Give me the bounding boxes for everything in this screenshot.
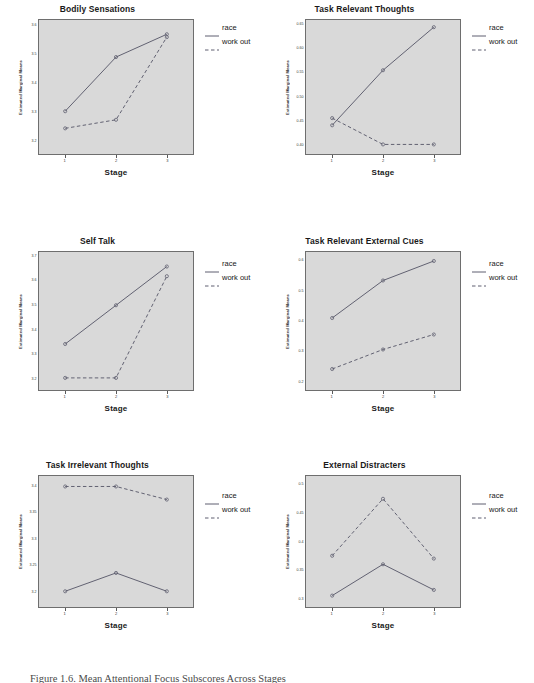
legend-label: work out xyxy=(489,506,517,514)
legend-item[interactable]: race xyxy=(472,24,517,32)
x-tick-label: 3 xyxy=(433,158,435,163)
data-point-marker xyxy=(331,117,334,120)
y-tick-label: 3.25 xyxy=(30,564,37,568)
legend-swatch-dashed xyxy=(205,507,219,513)
data-point-marker xyxy=(331,594,334,597)
chart-legend: racework out xyxy=(472,24,517,46)
x-tick-label: 2 xyxy=(115,394,117,399)
x-tick-label: 3 xyxy=(166,611,168,616)
series-canvas xyxy=(306,20,460,154)
chart-legend: racework out xyxy=(205,492,250,514)
legend-swatch-dashed xyxy=(472,275,486,281)
legend-label: race xyxy=(489,492,504,500)
y-axis-ticks: 0.50.450.40.350.3 xyxy=(290,475,305,608)
chart-panel: Self TalkEstimated Marginal Means3.73.63… xyxy=(0,222,267,452)
series-line-race xyxy=(332,261,434,318)
y-axis-ticks: 3.43.353.33.253.2 xyxy=(23,475,38,608)
chart-title: Task Irrelevant Thoughts xyxy=(0,460,195,471)
y-tick-label: 0.5 xyxy=(299,483,304,487)
y-tick-label: 3.5 xyxy=(32,53,37,57)
y-tick-label: 0.45 xyxy=(297,512,304,516)
legend-item[interactable]: race xyxy=(205,24,250,32)
x-tick-label: 2 xyxy=(115,611,117,616)
y-tick-label: 0.50 xyxy=(297,96,304,100)
chart-title: External Distracters xyxy=(267,460,462,471)
x-axis-label: Stage xyxy=(38,168,194,177)
x-tick-label: 3 xyxy=(433,611,435,616)
data-point-marker xyxy=(331,124,334,127)
y-tick-label: 3.3 xyxy=(32,353,37,357)
series-canvas xyxy=(39,20,193,154)
y-tick-label: 0.4 xyxy=(299,320,304,324)
data-point-marker xyxy=(432,26,435,29)
y-tick-label: 3.2 xyxy=(32,140,37,144)
series-line-race xyxy=(332,564,434,595)
x-axis-ticks: 123 xyxy=(38,155,194,168)
series-line-race xyxy=(65,267,167,344)
x-tick-label: 3 xyxy=(166,158,168,163)
x-axis-label: Stage xyxy=(305,404,461,413)
legend-swatch-solid xyxy=(472,493,486,499)
chart-legend: racework out xyxy=(205,24,250,46)
legend-swatch-solid xyxy=(205,25,219,31)
legend-label: work out xyxy=(222,38,250,46)
legend-item[interactable]: work out xyxy=(205,506,250,514)
data-point-marker xyxy=(165,275,168,278)
series-line-work-out xyxy=(65,276,167,378)
y-tick-label: 3.2 xyxy=(32,591,37,595)
legend-item[interactable]: work out xyxy=(205,274,250,282)
x-tick-label: 1 xyxy=(63,394,65,399)
legend-swatch-solid xyxy=(472,25,486,31)
legend-item[interactable]: race xyxy=(472,260,517,268)
legend-item[interactable]: work out xyxy=(472,506,517,514)
legend-item[interactable]: work out xyxy=(472,38,517,46)
x-tick-label: 2 xyxy=(382,611,384,616)
y-tick-label: 0.6 xyxy=(299,259,304,263)
y-tick-label: 0.35 xyxy=(297,569,304,573)
chart-title: Task Relevant Thoughts xyxy=(267,4,462,15)
x-tick-label: 1 xyxy=(63,611,65,616)
y-axis-ticks: 0.60.50.40.30.2 xyxy=(290,251,305,391)
x-axis-label: Stage xyxy=(305,168,461,177)
legend-swatch-solid xyxy=(205,493,219,499)
y-axis-ticks: 3.73.63.53.43.33.2 xyxy=(23,251,38,391)
y-axis-ticks: 0.650.600.550.500.450.40 xyxy=(290,19,305,155)
x-tick-label: 2 xyxy=(382,394,384,399)
legend-swatch-dashed xyxy=(205,275,219,281)
y-tick-label: 0.2 xyxy=(299,381,304,385)
legend-swatch-solid xyxy=(472,261,486,267)
series-canvas xyxy=(39,252,193,390)
legend-item[interactable]: work out xyxy=(205,38,250,46)
y-tick-label: 3.35 xyxy=(30,511,37,515)
series-line-work-out xyxy=(65,37,167,128)
legend-item[interactable]: race xyxy=(205,260,250,268)
series-line-work-out xyxy=(332,499,434,559)
y-tick-label: 0.4 xyxy=(299,541,304,545)
y-tick-label: 3.4 xyxy=(32,485,37,489)
y-tick-label: 3.6 xyxy=(32,24,37,28)
x-tick-label: 1 xyxy=(330,158,332,163)
y-tick-label: 3.4 xyxy=(32,82,37,86)
legend-swatch-solid xyxy=(205,261,219,267)
chart-title: Task Relevant External Cues xyxy=(267,236,462,247)
data-point-marker xyxy=(381,143,384,146)
legend-item[interactable]: race xyxy=(205,492,250,500)
y-tick-label: 3.7 xyxy=(32,255,37,259)
series-canvas xyxy=(306,476,460,607)
chart-panel: Bodily SensationsEstimated Marginal Mean… xyxy=(0,0,267,222)
x-tick-label: 1 xyxy=(63,158,65,163)
x-axis-ticks: 123 xyxy=(305,155,461,168)
plot-area xyxy=(38,251,194,391)
series-line-race xyxy=(65,573,167,591)
chart-legend: racework out xyxy=(472,492,517,514)
legend-item[interactable]: race xyxy=(472,492,517,500)
y-tick-label: 0.5 xyxy=(299,290,304,294)
legend-item[interactable]: work out xyxy=(472,274,517,282)
x-tick-label: 3 xyxy=(166,394,168,399)
legend-label: race xyxy=(222,24,237,32)
x-axis-label: Stage xyxy=(38,621,194,630)
plot-area xyxy=(38,19,194,155)
chart-legend: racework out xyxy=(472,260,517,282)
x-axis-ticks: 123 xyxy=(305,391,461,404)
figure-panel-grid: Bodily SensationsEstimated Marginal Mean… xyxy=(0,0,534,664)
